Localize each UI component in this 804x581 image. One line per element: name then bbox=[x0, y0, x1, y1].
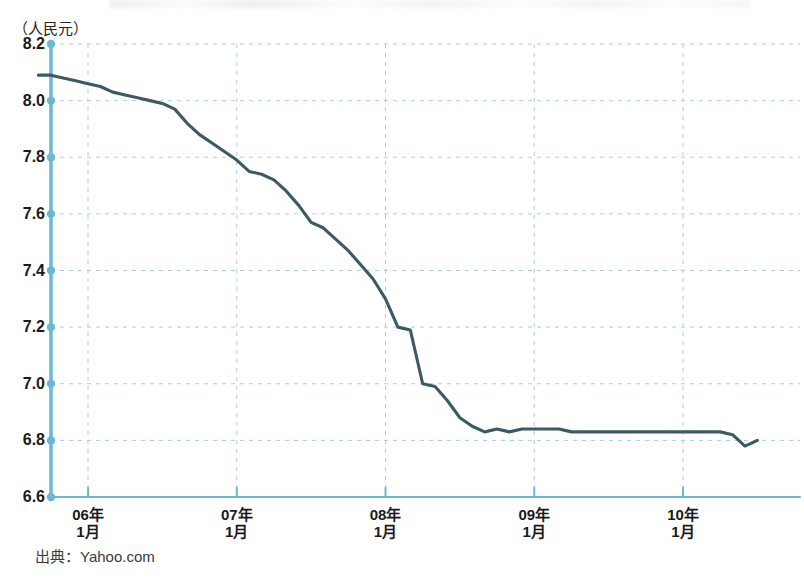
x-tick-month: 1月 bbox=[667, 523, 699, 540]
exchange-rate-chart: （人民元） 8.28.07.87.67.47.27.06.86.6 06年1月0… bbox=[0, 0, 804, 581]
x-tick-year: 08年 bbox=[370, 506, 402, 523]
y-tick-dot bbox=[47, 210, 55, 218]
x-axis-tick-marks bbox=[88, 487, 683, 497]
x-tick-label: 10年1月 bbox=[667, 506, 699, 541]
y-tick-dot bbox=[47, 96, 55, 104]
y-tick-dot bbox=[47, 436, 55, 444]
y-tick-dot bbox=[47, 266, 55, 274]
y-tick-dot bbox=[47, 493, 55, 501]
x-tick-year: 09年 bbox=[518, 506, 550, 523]
source-note: 出典：Yahoo.com bbox=[35, 545, 155, 566]
data-line-series bbox=[38, 75, 757, 446]
axis-lines bbox=[51, 44, 800, 497]
x-tick-month: 1月 bbox=[518, 523, 550, 540]
x-tick-year: 06年 bbox=[72, 506, 104, 523]
y-tick-dot bbox=[47, 40, 55, 48]
x-tick-label: 07年1月 bbox=[221, 506, 253, 541]
x-tick-month: 1月 bbox=[72, 523, 104, 540]
x-tick-year: 10年 bbox=[667, 506, 699, 523]
x-tick-label: 06年1月 bbox=[72, 506, 104, 541]
y-tick-dot bbox=[47, 380, 55, 388]
y-tick-dot bbox=[47, 153, 55, 161]
plot-area bbox=[0, 0, 804, 581]
x-tick-year: 07年 bbox=[221, 506, 253, 523]
x-tick-month: 1月 bbox=[370, 523, 402, 540]
y-tick-dot bbox=[47, 323, 55, 331]
x-tick-label: 09年1月 bbox=[518, 506, 550, 541]
x-tick-month: 1月 bbox=[221, 523, 253, 540]
x-tick-label: 08年1月 bbox=[370, 506, 402, 541]
